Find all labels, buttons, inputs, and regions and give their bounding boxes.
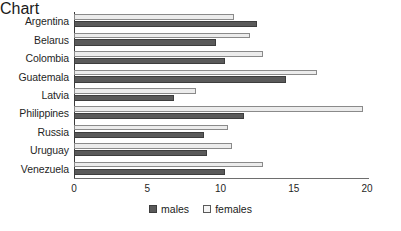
category-label-venezuela: Venezuela [21,163,69,175]
bar-males-argentina [74,21,257,27]
x-tick-0: 0 [71,183,77,194]
bar-females-philippines [74,106,363,112]
bar-males-latvia [74,95,174,101]
category-label-philippines: Philippines [19,107,69,119]
outlined-light-square-icon [203,205,211,213]
bar-males-colombia [74,58,225,64]
category-label-russia: Russia [38,126,70,138]
bar-females-latvia [74,88,196,94]
bar-females-venezuela [74,162,263,168]
x-tick-15: 15 [288,183,299,194]
chart-row: Guatemala [74,67,367,85]
bar-females-belarus [74,33,250,39]
legend-item-males[interactable]: males [149,203,189,215]
filled-dark-square-icon [149,205,157,213]
bar-females-uruguay [74,143,232,149]
chart-row: Argentina [74,12,367,30]
plot-area: ArgentinaBelarusColombiaGuatemalaLatviaP… [74,12,367,178]
legend-item-females[interactable]: females [203,203,252,215]
chart-row: Latvia [74,86,367,104]
category-label-uruguay: Uruguay [30,144,69,156]
chart-row: Russia [74,123,367,141]
x-tick-5: 5 [144,183,150,194]
bar-males-belarus [74,39,216,45]
bar-males-guatemala [74,76,286,82]
legend-label-females: females [215,203,252,215]
bar-chart: ArgentinaBelarusColombiaGuatemalaLatviaP… [0,0,401,231]
bar-males-uruguay [74,150,207,156]
chart-legend: males females [0,203,401,215]
category-label-belarus: Belarus [34,34,69,46]
x-tick-10: 10 [215,183,226,194]
chart-row: Venezuela [74,160,367,178]
x-axis-line [74,178,369,179]
legend-label-males: males [161,203,189,215]
bar-males-philippines [74,113,244,119]
category-label-guatemala: Guatemala [19,71,69,83]
x-tick-20: 20 [361,183,372,194]
category-label-latvia: Latvia [42,89,69,101]
bar-females-argentina [74,14,234,20]
chart-row: Philippines [74,104,367,122]
bar-females-guatemala [74,70,317,76]
chart-row: Uruguay [74,141,367,159]
bar-males-russia [74,132,204,138]
category-label-colombia: Colombia [25,52,69,64]
chart-row: Belarus [74,30,367,48]
category-label-argentina: Argentina [25,15,69,27]
bar-females-russia [74,125,228,131]
bar-females-colombia [74,51,263,57]
bar-males-venezuela [74,169,225,175]
chart-row: Colombia [74,49,367,67]
